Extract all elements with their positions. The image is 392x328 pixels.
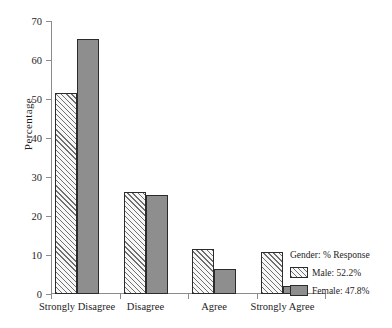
x-tick-mark [51, 294, 52, 299]
bar-female-0 [77, 39, 99, 294]
x-category-label: Disagree [127, 301, 164, 312]
legend-item-female: Female: 47.8% [290, 285, 392, 296]
y-tick-label: 70 [18, 16, 42, 27]
bar-female-1 [146, 195, 168, 294]
legend: Gender: % Response Male: 52.2%Female: 47… [290, 250, 392, 303]
x-tick-mark [257, 294, 258, 299]
y-axis-title: Percentage [22, 74, 34, 174]
y-tick-label: 60 [18, 55, 42, 66]
x-tick-mark [120, 294, 121, 299]
x-tick-mark [188, 294, 189, 299]
legend-label-male: Male: 52.2% [312, 268, 361, 278]
y-tick-label: 30 [18, 172, 42, 183]
bar-male-0 [55, 93, 77, 294]
bar-male-1 [124, 192, 146, 294]
y-tick-label: 50 [18, 94, 42, 105]
bar-female-2 [214, 269, 236, 294]
y-tick-label: 40 [18, 133, 42, 144]
legend-label-female: Female: 47.8% [312, 286, 370, 296]
legend-items: Male: 52.2%Female: 47.8% [290, 267, 392, 296]
y-tick-label: 0 [18, 289, 42, 300]
bar-chart: Percentage 010203040506070 Strongly Disa… [0, 0, 392, 328]
legend-swatch-male [290, 267, 308, 278]
x-category-label: Agree [201, 301, 227, 312]
y-tick-label: 10 [18, 250, 42, 261]
legend-swatch-female [290, 285, 308, 296]
y-tick-label: 20 [18, 211, 42, 222]
x-category-label: Strongly Disagree [39, 301, 115, 312]
legend-title: Gender: % Response [290, 250, 392, 260]
bar-male-2 [192, 249, 214, 294]
legend-item-male: Male: 52.2% [290, 267, 392, 278]
plot-area [51, 21, 325, 294]
bar-male-3 [261, 252, 283, 295]
